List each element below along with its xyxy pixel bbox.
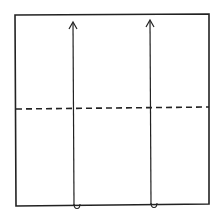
- left-fold-arrow: [69, 22, 80, 209]
- fold-line: [16, 107, 209, 109]
- right-fold-arrow: [146, 20, 157, 208]
- origami-diagram: [0, 0, 223, 216]
- paper-square: [15, 14, 209, 206]
